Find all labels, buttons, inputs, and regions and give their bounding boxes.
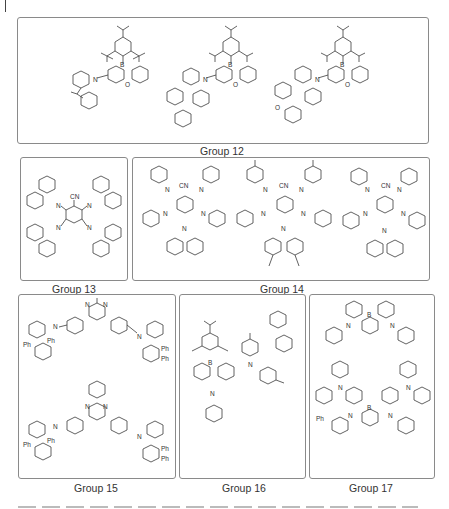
figure-caption-truncated (18, 503, 418, 509)
svg-text:N: N (56, 202, 61, 209)
svg-text:B: B (367, 404, 371, 411)
svg-text:N: N (203, 76, 208, 83)
group-14-structure-2: CNNNNNN (229, 158, 339, 278)
page-margin-mark (5, 0, 6, 12)
svg-text:B: B (340, 61, 344, 68)
svg-text:Ph: Ph (161, 345, 169, 352)
group-16-label: Group 16 (219, 482, 269, 494)
svg-text:N: N (137, 433, 142, 440)
svg-text:N: N (103, 301, 108, 308)
svg-text:CN: CN (381, 182, 391, 189)
svg-text:N: N (201, 210, 206, 217)
group-16-panel: BNN (179, 294, 306, 479)
group-15-structure-2: NNNN PhPhPhPh (19, 383, 175, 478)
svg-text:CN: CN (70, 193, 80, 200)
svg-text:N: N (261, 210, 266, 217)
svg-text:N: N (165, 186, 170, 193)
svg-text:N: N (363, 210, 368, 217)
svg-text:N: N (93, 76, 98, 83)
svg-text:N: N (137, 333, 142, 340)
svg-text:N: N (85, 403, 90, 410)
group-12-label: Group 12 (197, 145, 247, 157)
svg-text:Ph: Ph (47, 337, 55, 344)
svg-text:N: N (281, 225, 286, 232)
svg-text:N: N (390, 322, 395, 329)
svg-text:N: N (85, 301, 90, 308)
svg-text:B: B (367, 311, 371, 318)
svg-text:N: N (182, 225, 187, 232)
svg-text:N: N (87, 224, 92, 231)
svg-text:Ph: Ph (161, 445, 169, 452)
svg-text:N: N (388, 412, 393, 419)
svg-text:CN: CN (279, 182, 289, 189)
group-13-structure-1: CN NNNN (21, 158, 127, 278)
svg-text:O: O (125, 81, 130, 88)
group-12-panel: BON BON (17, 17, 429, 144)
group-17-structure-2: NNB NNPh (310, 363, 434, 473)
svg-text:N: N (348, 412, 353, 419)
group-16-structure-1: BNN (180, 295, 305, 475)
svg-text:N: N (53, 423, 58, 430)
svg-text:Ph: Ph (161, 455, 169, 462)
svg-text:O: O (233, 81, 238, 88)
group-17-structure-1: BNN (310, 295, 434, 365)
svg-text:N: N (199, 186, 204, 193)
svg-text:N: N (301, 210, 306, 217)
svg-text:N: N (56, 224, 61, 231)
group-12-structure-2: BON (161, 20, 291, 140)
svg-text:N: N (338, 384, 343, 391)
svg-text:N: N (248, 361, 253, 368)
svg-text:B: B (228, 61, 232, 68)
svg-text:N: N (365, 186, 370, 193)
group-15-panel: NNNN PhPhPhPh NNNN PhPhPhPh (18, 294, 176, 479)
svg-text:N: N (53, 323, 58, 330)
svg-text:Ph: Ph (47, 437, 55, 444)
svg-text:N: N (103, 403, 108, 410)
svg-text:B: B (208, 359, 212, 366)
svg-text:B: B (120, 61, 124, 68)
svg-text:N: N (346, 322, 351, 329)
svg-text:N: N (163, 210, 168, 217)
svg-text:O: O (275, 104, 280, 111)
svg-text:Ph: Ph (316, 415, 324, 422)
svg-text:N: N (401, 210, 406, 217)
svg-text:N: N (87, 202, 92, 209)
svg-text:N: N (299, 186, 304, 193)
group-14-structure-1: CNNNNNN (139, 158, 229, 278)
svg-text:N: N (210, 390, 215, 397)
svg-text:Ph: Ph (23, 341, 31, 348)
svg-text:N: N (263, 186, 268, 193)
svg-text:O: O (345, 81, 350, 88)
group-15-label: Group 15 (71, 482, 121, 494)
svg-text:Ph: Ph (161, 355, 169, 362)
svg-text:N: N (382, 227, 387, 234)
svg-text:N: N (315, 76, 320, 83)
svg-text:Ph: Ph (23, 441, 31, 448)
group-12-structure-3: BONO (273, 20, 403, 140)
svg-text:N: N (397, 186, 402, 193)
svg-text:N: N (406, 384, 411, 391)
group-14-structure-3: CNNNNNN (339, 158, 429, 278)
group-17-panel: BNN NNB NNPh (309, 294, 435, 479)
group-15-structure-1: NNNN PhPhPhPh (19, 295, 175, 380)
group-14-panel: CNNNNNN CNNNNNN CNNNNNN (132, 157, 430, 281)
group-13-panel: CN NNNN (20, 157, 128, 281)
svg-text:CN: CN (179, 182, 189, 189)
group-17-label: Group 17 (346, 482, 396, 494)
